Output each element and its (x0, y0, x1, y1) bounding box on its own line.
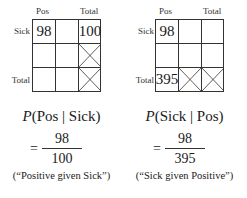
cell-sick-total (202, 20, 224, 44)
row-label-total: Total (125, 75, 154, 85)
cell-value: 98 (37, 23, 52, 40)
cell-healthy-pos (156, 44, 179, 68)
cell-total-pos: 395 (156, 68, 179, 91)
fraction-bar (42, 148, 82, 149)
cell-total-pos (33, 68, 56, 91)
col-label-pos: Pos (159, 6, 172, 16)
row-label-sick: Sick (127, 26, 154, 36)
cell-healthy-pos (33, 44, 56, 68)
caption: (“Positive given Sick”) (0, 170, 123, 181)
cell-healthy-total-crossed (79, 44, 101, 68)
probability-expression: P(Sick | Pos) (123, 108, 246, 125)
cell-total-total-crossed (79, 68, 101, 91)
fraction-equation: = 98 100 (0, 131, 123, 165)
cross-out-icon (179, 68, 201, 91)
fraction: 98 100 (42, 131, 82, 166)
right-panel-sick-given-pos: Pos Total Sick Total 98 395 P(Sick | Pos… (123, 0, 246, 198)
cell-healthy-neg (179, 44, 202, 68)
contingency-grid: 98 395 (155, 19, 224, 92)
row-label-total: Total (2, 75, 30, 85)
cell-sick-neg (179, 20, 202, 44)
cell-value: 100 (79, 23, 102, 40)
col-label-total: Total (80, 6, 98, 16)
col-label-pos: Pos (36, 6, 49, 16)
probability-args: (Pos | Sick) (32, 108, 101, 124)
cell-value: 395 (156, 71, 179, 88)
cell-healthy-neg (56, 44, 79, 68)
fraction-bar (165, 148, 205, 149)
cell-sick-neg (56, 20, 79, 44)
denominator: 100 (42, 151, 82, 166)
equals-sign: = (30, 141, 38, 157)
row-label-sick: Sick (4, 26, 30, 36)
denominator: 395 (165, 151, 205, 166)
cross-out-icon (202, 68, 224, 91)
numerator: 98 (42, 131, 82, 146)
left-panel-pos-given-sick: Pos Total Sick Total 98 100 P(Pos | Sick… (0, 0, 123, 198)
cell-sick-total: 100 (79, 20, 101, 44)
col-label-total: Total (203, 6, 221, 16)
caption: (“Sick given Positive”) (123, 170, 246, 181)
cell-total-neg-crossed (179, 68, 202, 91)
cell-healthy-total (202, 44, 224, 68)
cell-sick-pos: 98 (156, 20, 179, 44)
probability-symbol: P (145, 108, 154, 124)
equals-sign: = (153, 141, 161, 157)
fraction-equation: = 98 395 (123, 131, 246, 165)
cell-sick-pos: 98 (33, 20, 56, 44)
contingency-grid: 98 100 (32, 19, 101, 92)
numerator: 98 (165, 131, 205, 146)
cell-total-neg (56, 68, 79, 91)
probability-expression: P(Pos | Sick) (0, 108, 123, 125)
cross-out-icon (79, 68, 101, 91)
probability-symbol: P (22, 108, 31, 124)
probability-args: (Sick | Pos) (155, 108, 224, 124)
fraction: 98 395 (165, 131, 205, 166)
cross-out-icon (79, 44, 101, 67)
cell-total-total-crossed (202, 68, 224, 91)
cell-value: 98 (160, 23, 175, 40)
